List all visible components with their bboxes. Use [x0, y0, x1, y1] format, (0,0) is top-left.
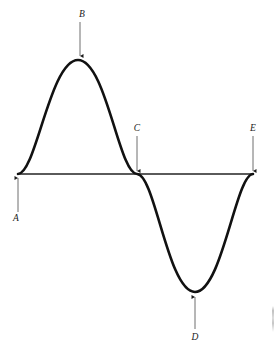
sine-wave-figure: A B C D E — [0, 0, 275, 351]
point-label-c: C — [134, 123, 141, 133]
point-label-d: D — [191, 332, 198, 342]
sine-curve — [18, 60, 253, 292]
scan-edge-artifact — [272, 306, 274, 332]
leader-arrows — [18, 22, 253, 329]
point-label-b: B — [79, 9, 85, 19]
point-label-a: A — [13, 213, 19, 223]
sine-wave-canvas — [0, 0, 275, 351]
point-label-e: E — [250, 123, 256, 133]
